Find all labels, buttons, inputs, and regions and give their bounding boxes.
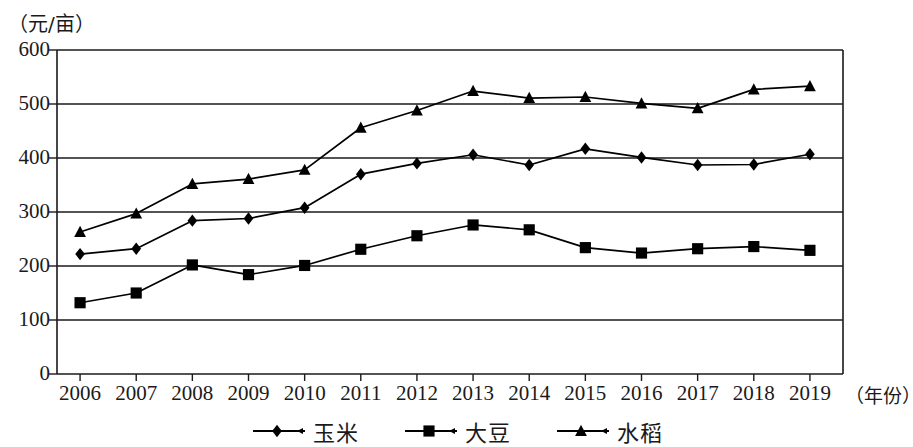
x-tick-label: 2011 [331,381,391,406]
y-tick-label: 500 [0,91,50,116]
x-tick-label: 2019 [780,381,840,406]
x-tick-label: 2012 [387,381,447,406]
x-tick-label: 2015 [555,381,615,406]
data-point [131,287,142,298]
data-point [580,242,591,253]
x-tick-label: 2006 [50,381,110,406]
x-tick-label: 2010 [275,381,335,406]
x-tick-label: 2016 [612,381,672,406]
x-tick-label: 2007 [106,381,166,406]
data-point [467,219,478,230]
x-tick-label: 2014 [499,381,559,406]
legend-label: 玉米 [313,415,359,447]
legend-label: 大豆 [465,415,511,447]
y-tick-label: 400 [0,145,50,170]
series-diamond [75,143,815,261]
legend-diamond-icon [251,421,307,441]
series-square [74,219,815,308]
y-tick-label: 100 [0,307,50,332]
data-point [299,260,310,271]
legend-item: 大豆 [403,415,511,447]
data-point [244,212,254,224]
data-point [356,168,366,180]
legend-item: 水稻 [555,415,663,447]
data-point [411,230,422,241]
data-point [749,158,759,170]
data-point [804,80,816,91]
y-tick-label: 300 [0,199,50,224]
data-series-layer [74,80,816,308]
data-point [524,159,534,171]
data-point [692,243,703,254]
data-point [299,164,311,175]
line-chart: （元/亩） 0100200300400500600 20062007200820… [0,0,913,447]
data-point [412,157,422,169]
data-point [74,297,85,308]
data-point [131,243,141,255]
data-point [188,214,198,226]
plot-area [0,0,913,400]
data-point [636,247,647,258]
x-tick-label: 2013 [443,381,503,406]
data-point [748,241,759,252]
data-point [243,269,254,280]
y-tick-label: 200 [0,253,50,278]
data-point [693,159,703,171]
chart-legend: 玉米大豆水稻 [0,415,913,447]
legend-item: 玉米 [251,415,359,447]
y-tick-label: 600 [0,37,50,62]
y-tick-label: 0 [0,361,50,386]
x-axis-ticks [80,374,810,381]
legend-label: 水稻 [617,415,663,447]
data-point [804,245,815,256]
x-tick-label: 2017 [668,381,728,406]
legend-triangle-icon [555,421,611,441]
gridlines [57,50,843,320]
data-point [130,207,142,218]
x-tick-label: 2008 [162,381,222,406]
data-point [637,151,647,163]
x-tick-label: 2018 [724,381,784,406]
legend-square-icon [403,421,459,441]
x-axis-title: （年份） [845,381,913,408]
data-point [581,143,591,155]
data-point [75,248,85,260]
data-point [524,224,535,235]
data-point [467,85,479,96]
data-point [355,244,366,255]
data-point [187,259,198,270]
y-axis-ticks [49,50,57,374]
data-point [468,149,478,161]
x-tick-label: 2009 [219,381,279,406]
